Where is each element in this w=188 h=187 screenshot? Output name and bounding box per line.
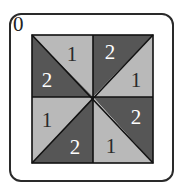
value-top-right-lower: 1	[131, 68, 142, 92]
value-bottom-right-upper: 2	[131, 105, 142, 129]
value-bottom-right-lower: 1	[106, 134, 117, 158]
value-top-left-upper: 1	[67, 42, 78, 66]
pinwheel-grid: 1 2 2 1 1 2 2 1	[0, 0, 188, 187]
value-bottom-left-lower: 2	[70, 135, 81, 159]
value-top-right-upper: 2	[105, 40, 116, 64]
value-top-left-lower: 2	[42, 68, 53, 92]
value-bottom-left-upper: 1	[42, 108, 53, 132]
